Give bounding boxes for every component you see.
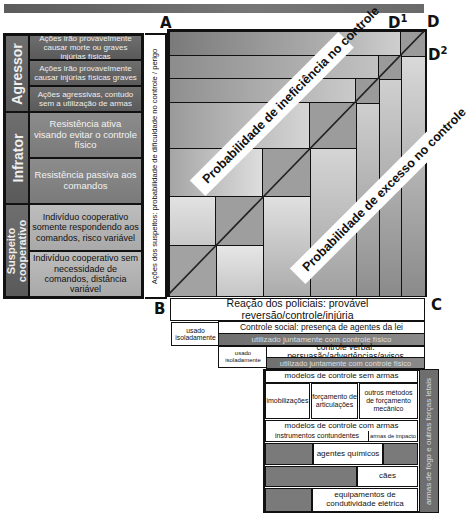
social-control-box: Controle social: presença de agentes da … [218,321,425,333]
suspect-action-active-resistance: Resistência ativa visando evitar o contr… [29,112,142,158]
verbal-control-box: controle verbal: persuasão/advertências/… [266,346,425,357]
y-axis-label: Ações dos suspeitos: probabilidade de di… [145,33,167,299]
dogs-box: cães [357,466,418,487]
unarmed-models-header: modelos de controle sem armas [265,370,418,383]
suspect-action-cooperative-commands: Indivíduo cooperativo somente respondend… [29,204,142,251]
firearms-label: armas de fogo e outras forças letais [425,377,434,504]
other-methods-box: outros métodos de forçamento mecânico [359,383,418,419]
point-c-label: C [431,296,442,314]
suspect-action-passive-resistance: Resistência passiva aos comandos [29,158,142,204]
suspect-action-lethal: Ações irão provavelmente causar morte ou… [29,35,142,60]
electrical-devices-box: equipamentos de condutividade elétrica [312,488,418,512]
suspect-action-serious-injury: Ações irão provavelmente causar injúrias… [29,60,142,86]
chemical-spacer-right [383,443,418,465]
category-suspeito-cooperativo: Suspeito cooperativo [5,204,29,297]
blunt-instruments-box: instrumentos contundentes [265,431,369,442]
impact-weapons-box: armas de impacto [368,431,418,442]
joint-forcing-box: forçamento de articulações [311,383,358,419]
category-agressor: Agressor [5,35,29,112]
used-alone-1: usado isoladamente [171,322,220,346]
police-reaction-box: Reação dos policiais: provável reversão/… [170,298,425,321]
chemical-spacer-left [265,443,313,465]
chemical-agents-box: agentes químicos [313,443,383,465]
electrical-spacer [265,488,312,512]
dogs-spacer [265,466,357,487]
firearms-box: armas de fogo e outras forças letais [419,369,439,513]
suspect-action-cooperative-no-commands: Indivíduo cooperativo sem necessidade de… [29,251,142,297]
header-bar [4,4,424,13]
category-infrator: Infrator [5,112,29,204]
used-with-physical-2: utilizado juntamente com controle físico [266,357,425,369]
used-alone-2: usado isoladamente [218,346,268,368]
point-b-label: B [154,300,165,318]
point-d-label: D [427,13,439,31]
immobilizations-box: imobilizações [265,383,310,419]
point-d2-label: D2 [428,45,447,64]
suspect-action-aggressive-unarmed: Ações agressivas, contudo sem a utilizaç… [29,86,142,112]
force-continuum-grid: Probabilidade de ineficiência no control… [167,29,427,297]
